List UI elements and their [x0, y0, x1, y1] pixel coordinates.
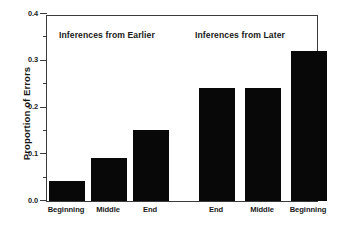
bar — [245, 88, 281, 201]
y-tick-major: 0.3 — [40, 60, 47, 61]
y-tick-minor — [43, 83, 47, 84]
y-tick-minor — [43, 177, 47, 178]
bar — [91, 158, 127, 201]
y-tick-minor — [43, 36, 47, 37]
x-axis-label: Beginning — [278, 205, 338, 214]
panel-title-earlier: Inferences from Earlier — [59, 30, 155, 40]
bar-chart-figure: Proportion of Errors 0.00.10.20.30.4 Inf… — [0, 0, 338, 229]
x-axis-label: End — [120, 205, 180, 214]
bar — [133, 130, 169, 201]
y-tick-label: 0.1 — [28, 149, 38, 158]
y-tick-major: 0.1 — [40, 153, 47, 154]
y-tick-label: 0.4 — [28, 9, 38, 18]
y-tick-label: 0.3 — [28, 55, 38, 64]
y-tick-label: 0.0 — [28, 196, 38, 205]
bar — [291, 51, 327, 201]
y-tick-minor — [43, 130, 47, 131]
y-axis-title: Proportion of Errors — [21, 44, 32, 184]
y-tick-major: 0.4 — [40, 13, 47, 14]
bar — [49, 181, 85, 201]
y-tick-major: 0.2 — [40, 107, 47, 108]
bar — [199, 88, 235, 201]
y-tick-label: 0.2 — [28, 102, 38, 111]
plot-area: 0.00.10.20.30.4 Inferences from Earlier … — [46, 15, 318, 202]
panel-title-later: Inferences from Later — [195, 30, 285, 40]
y-tick-major: 0.0 — [40, 200, 47, 201]
